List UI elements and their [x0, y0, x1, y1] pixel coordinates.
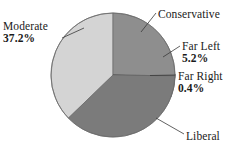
pie-label-far-left-name: Far Left [182, 40, 220, 52]
pie-label-far-left: Far Left 5.2% [182, 40, 220, 65]
leader-line-far-right [150, 75, 176, 76]
pie-label-moderate-name: Moderate [3, 20, 48, 32]
pie-chart-figure: Conservative Far Left 5.2% Far Right 0.4… [0, 0, 246, 153]
pie-label-far-right-percent: 0.4% [178, 82, 223, 94]
pie-label-far-right-name: Far Right [178, 70, 223, 82]
pie-label-liberal-name: Liberal [186, 130, 220, 142]
pie-label-moderate-percent: 37.2% [3, 32, 48, 44]
pie-label-conservative-name: Conservative [158, 8, 220, 20]
leader-line-liberal [156, 118, 184, 134]
pie-label-far-left-percent: 5.2% [182, 52, 220, 64]
pie-label-conservative: Conservative [158, 8, 220, 20]
pie-label-liberal: Liberal [186, 130, 220, 142]
pie-label-far-right: Far Right 0.4% [178, 70, 223, 95]
pie-label-moderate: Moderate 37.2% [3, 20, 48, 45]
